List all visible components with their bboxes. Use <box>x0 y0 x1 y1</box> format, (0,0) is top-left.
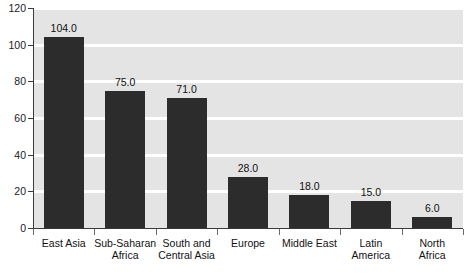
bar-value-label: 6.0 <box>392 203 468 214</box>
gridline <box>33 44 463 47</box>
x-tick-mark <box>33 229 34 235</box>
x-tick-mark <box>217 229 218 235</box>
y-tick-mark <box>28 45 33 46</box>
category-label-line: North <box>419 237 445 249</box>
y-tick-mark <box>28 81 33 82</box>
y-tick-label: 80 <box>0 76 26 86</box>
y-tick-label: 20 <box>0 186 26 196</box>
category-label-line: East Asia <box>42 237 86 249</box>
y-axis-line <box>33 8 34 229</box>
bar-value-label: 28.0 <box>207 163 288 174</box>
y-tick-mark <box>28 8 33 9</box>
bar <box>351 201 391 229</box>
y-tick-mark <box>28 155 33 156</box>
y-tick-label: 60 <box>0 113 26 123</box>
bar <box>289 195 329 228</box>
category-label-line: Middle East <box>282 237 337 249</box>
y-tick-label: 40 <box>0 150 26 160</box>
bar-value-label: 104.0 <box>23 23 104 34</box>
x-tick-mark <box>94 229 95 235</box>
category-label-line: Europe <box>231 237 265 249</box>
category-label-line: Latin <box>359 237 382 249</box>
y-tick-mark <box>28 191 33 192</box>
category-label-line: Africa <box>396 250 468 262</box>
bar <box>44 37 84 228</box>
x-tick-mark <box>279 229 280 235</box>
bar <box>228 177 268 228</box>
x-tick-mark <box>463 229 464 235</box>
gridline <box>33 154 463 157</box>
gridline <box>33 8 463 10</box>
category-label-line: Central Asia <box>150 250 223 262</box>
bar-value-label: 15.0 <box>330 187 411 198</box>
bar <box>167 98 207 228</box>
y-tick-label: 0 <box>0 223 26 233</box>
x-tick-mark <box>340 229 341 235</box>
x-tick-mark <box>156 229 157 235</box>
x-axis-line <box>33 228 463 229</box>
bar <box>412 217 452 228</box>
y-tick-mark <box>28 118 33 119</box>
y-tick-label: 100 <box>0 40 26 50</box>
gridline <box>33 117 463 120</box>
bar-value-label: 71.0 <box>146 84 227 95</box>
x-tick-mark <box>402 229 403 235</box>
bar <box>105 91 145 229</box>
y-tick-label: 120 <box>0 3 26 13</box>
category-label-line: South and <box>163 237 211 249</box>
category-label-line: Sub-Saharan <box>94 237 156 249</box>
category-label: NorthAfrica <box>396 238 468 261</box>
